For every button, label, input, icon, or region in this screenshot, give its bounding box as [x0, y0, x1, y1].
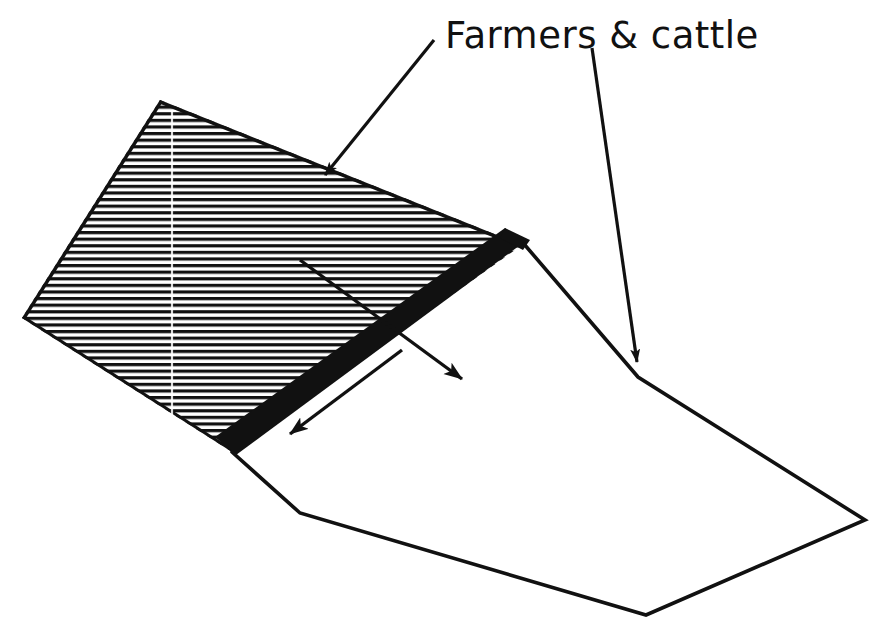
leader-to-upland [325, 40, 434, 175]
leader-to-lowland [592, 48, 637, 362]
block-diagram-svg: Farmers & cattle [0, 0, 881, 633]
label-farmers-and-cattle: Farmers & cattle [445, 14, 759, 57]
figure-canvas: Farmers & cattle [0, 0, 881, 633]
